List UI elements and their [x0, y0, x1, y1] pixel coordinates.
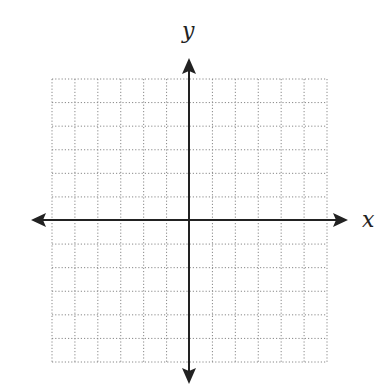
x-axis-label: x [362, 207, 375, 232]
y-axis-label: y [181, 18, 195, 43]
coordinate-plane: x y [0, 0, 388, 392]
